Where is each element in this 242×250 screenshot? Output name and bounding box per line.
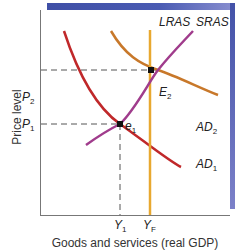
ad1-label: AD1: [196, 158, 217, 173]
point-E2: [148, 67, 154, 73]
y1-label: Y1: [114, 219, 126, 234]
x-axis-title: Goods and services (real GDP): [40, 236, 230, 250]
lras-label: LRAS: [159, 16, 190, 28]
e1-label: e1: [125, 120, 136, 135]
sras-curve: [86, 31, 193, 145]
E2-label: E2: [159, 86, 171, 101]
ad2-label: AD2: [196, 121, 217, 136]
point-e1: [117, 121, 123, 127]
yf-label: YF: [143, 219, 156, 234]
sras-label: SRAS: [196, 16, 229, 28]
y-axis-title: Price level: [10, 82, 24, 152]
